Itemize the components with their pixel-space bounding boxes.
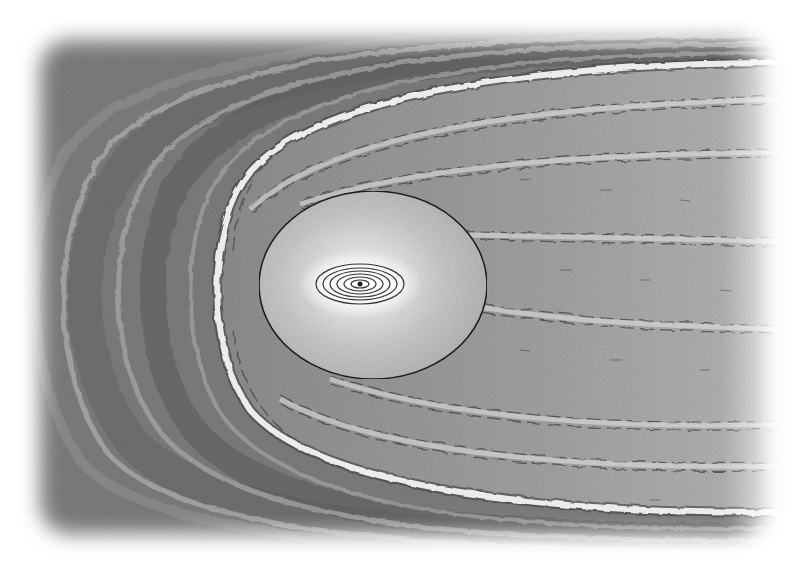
star-core: [298, 250, 422, 318]
astrosphere-illustration: [0, 0, 803, 572]
star-icon: [358, 282, 363, 287]
